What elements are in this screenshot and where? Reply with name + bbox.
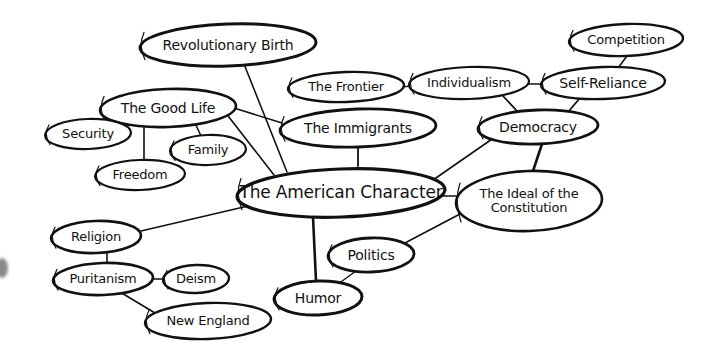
- node-label-deism: Deism: [176, 272, 216, 286]
- node-label-self-reliance: Self-Reliance: [559, 76, 646, 91]
- node-label-american-character: The American Character: [240, 184, 443, 202]
- node-label-family: Family: [188, 143, 229, 157]
- node-label-frontier: The Frontier: [308, 80, 384, 94]
- node-label-individualism: Individualism: [427, 76, 511, 90]
- node-label-competition: Competition: [587, 33, 664, 47]
- node-label-new-england: New England: [166, 314, 249, 328]
- node-label-politics: Politics: [347, 248, 394, 263]
- node-label-democracy: Democracy: [499, 120, 577, 135]
- node-label-revolutionary-birth: Revolutionary Birth: [162, 38, 293, 53]
- node-label-puritanism: Puritanism: [69, 272, 136, 286]
- concept-map-canvas: The American CharacterRevolutionary Birt…: [0, 0, 720, 359]
- node-label-security: Security: [62, 127, 114, 141]
- node-label-freedom: Freedom: [112, 168, 167, 182]
- node-label-religion: Religion: [71, 230, 121, 244]
- node-ellipses: [0, 0, 720, 359]
- node-label-humor: Humor: [295, 291, 341, 306]
- node-label-ideal-constitution: The Ideal of theConstitution: [480, 187, 579, 214]
- node-label-immigrants: The Immigrants: [304, 121, 412, 136]
- node-label-good-life: The Good Life: [121, 101, 215, 116]
